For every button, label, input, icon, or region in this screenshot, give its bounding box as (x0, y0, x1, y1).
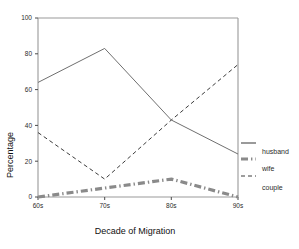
series-line-wife (38, 179, 238, 197)
x-tick-label-90s: 90s (233, 202, 244, 209)
x-axis-title: Decade of Migration (95, 226, 176, 236)
legend-label-wife: wife (261, 165, 275, 172)
y-tick-label-60: 60 (25, 86, 33, 93)
legend-label-husband: husband (262, 148, 289, 155)
plot-frame (38, 18, 238, 197)
y-tick-label-0: 0 (28, 193, 32, 200)
legend-label-couple: couple (262, 184, 283, 192)
y-tick-label-80: 80 (25, 50, 33, 57)
chart-canvas: 0 20 40 60 80 100 60s 70s 80s 90s Decade… (0, 0, 299, 249)
y-tick-label-100: 100 (21, 14, 32, 21)
x-tick-label-80s: 80s (166, 202, 177, 209)
line-chart: 0 20 40 60 80 100 60s 70s 80s 90s Decade… (0, 0, 299, 249)
y-axis-title: Percentage (5, 132, 15, 178)
series-line-couple (38, 65, 238, 180)
series-line-husband (38, 48, 238, 154)
x-tick-label-70s: 70s (99, 202, 110, 209)
y-tick-label-20: 20 (25, 158, 33, 165)
y-tick-label-40: 40 (25, 122, 33, 129)
x-tick-label-60s: 60s (33, 202, 44, 209)
chart-legend: husband wife couple (241, 143, 289, 192)
